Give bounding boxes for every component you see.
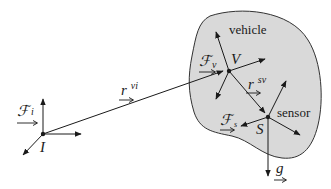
vector-symbol: r [121, 82, 127, 98]
frame-symbol: ℱ [199, 53, 211, 69]
label-frame-inertial: ℱi [17, 103, 32, 119]
underarrow-icon [220, 127, 236, 133]
vector-superscript: sv [258, 74, 266, 85]
label-origin-S: S [256, 122, 264, 137]
vector-superscript: vi [131, 80, 138, 91]
underarrow-icon [246, 90, 262, 96]
frame-symbol: ℱ [17, 103, 29, 119]
label-frame-vehicle: ℱv [199, 53, 215, 69]
label-vector-r-vi: rvi [121, 82, 134, 98]
label-origin-I: I [40, 140, 45, 155]
underarrow-icon [199, 69, 217, 75]
frame-symbol: ℱ [220, 112, 232, 128]
underarrow-icon [17, 120, 39, 126]
label-vector-g: g [276, 161, 284, 176]
label-sensor: sensor [277, 106, 310, 119]
frame-subscript: i [31, 106, 34, 117]
label-vehicle: vehicle [229, 23, 267, 36]
underarrow-icon [119, 97, 135, 103]
underarrow-icon [274, 177, 288, 183]
label-origin-V: V [231, 52, 240, 67]
label-frame-sensor: ℱs [220, 112, 235, 128]
